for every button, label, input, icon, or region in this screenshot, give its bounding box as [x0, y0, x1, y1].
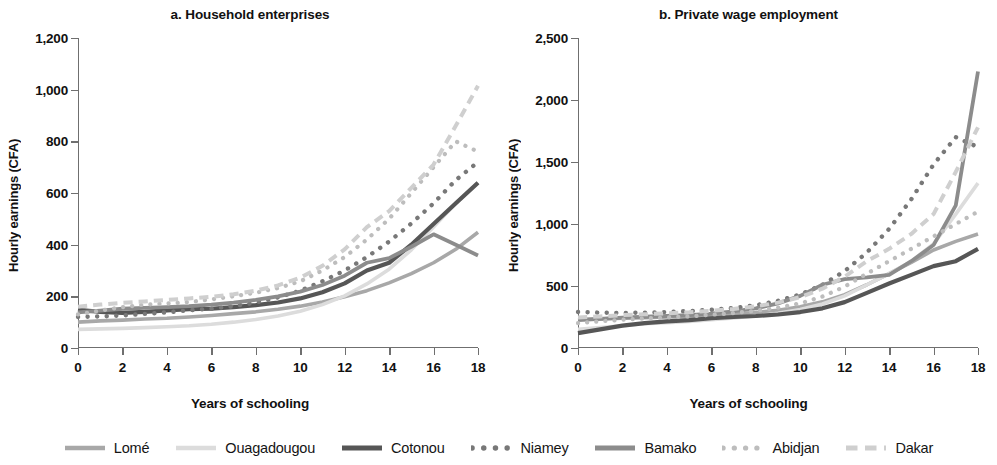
y-tick	[571, 348, 578, 349]
legend-swatch-solid-icon	[175, 441, 217, 455]
y-tick-label: 0	[61, 341, 68, 356]
legend-swatch-dashed-icon	[845, 441, 887, 455]
legend-swatch-dotted-icon	[471, 441, 513, 455]
series-line-bamako	[578, 71, 978, 320]
x-tick-label: 16	[926, 360, 941, 375]
x-tick	[978, 348, 979, 355]
legend-label: Abidjan	[772, 440, 819, 456]
x-tick	[667, 348, 668, 355]
y-tick-label: 1,000	[535, 217, 568, 232]
x-tick-label: 6	[208, 360, 215, 375]
x-tick-label: 0	[74, 360, 81, 375]
series-line-abidjan	[578, 212, 978, 324]
panel-b-y-axis-label: Hourly earnings (CFA)	[506, 105, 521, 305]
y-tick	[71, 245, 78, 246]
y-tick	[71, 296, 78, 297]
y-tick	[71, 90, 78, 91]
y-tick-label: 600	[46, 186, 68, 201]
x-tick-label: 10	[293, 360, 308, 375]
legend-item-abidjan[interactable]: Abidjan	[722, 440, 845, 456]
y-tick-label: 400	[46, 237, 68, 252]
x-tick-label: 14	[382, 360, 397, 375]
figure-container: a. Household enterprises Hourly earnings…	[0, 0, 997, 465]
x-tick-label: 2	[119, 360, 126, 375]
legend-item-bamako[interactable]: Bamako	[594, 440, 722, 456]
x-tick	[934, 348, 935, 355]
x-tick-label: 8	[752, 360, 759, 375]
x-tick-label: 6	[708, 360, 715, 375]
x-tick	[578, 348, 579, 355]
x-tick-label: 12	[837, 360, 852, 375]
legend-swatch-solid-icon	[64, 441, 106, 455]
legend-label: Lomé	[114, 440, 149, 456]
series-line-cotonou	[578, 249, 978, 333]
x-tick	[78, 348, 79, 355]
legend-item-cotonou[interactable]: Cotonou	[341, 440, 470, 456]
x-tick-label: 10	[793, 360, 808, 375]
y-tick	[71, 348, 78, 349]
y-tick	[71, 193, 78, 194]
x-tick-label: 4	[663, 360, 670, 375]
x-tick	[845, 348, 846, 355]
x-tick	[211, 348, 212, 355]
x-tick	[478, 348, 479, 355]
panel-a-y-axis-label: Hourly earnings (CFA)	[6, 105, 21, 305]
x-tick	[756, 348, 757, 355]
y-tick	[571, 162, 578, 163]
series-line-dakar	[78, 86, 478, 307]
panel-a-plot-area: 02004006008001,0001,200024681012141618	[78, 38, 478, 348]
legend-swatch-solid-icon	[594, 441, 636, 455]
panel-b-title: b. Private wage employment	[500, 7, 997, 22]
x-tick-label: 2	[619, 360, 626, 375]
panel-b-series-lines	[578, 38, 978, 348]
panel-a-x-axis-label: Years of schooling	[0, 396, 500, 411]
x-tick-label: 14	[882, 360, 897, 375]
x-tick-label: 16	[426, 360, 441, 375]
panel-household-enterprises: a. Household enterprises Hourly earnings…	[0, 0, 500, 425]
x-tick	[800, 348, 801, 355]
x-tick	[711, 348, 712, 355]
y-tick-label: 2,000	[535, 93, 568, 108]
x-tick	[256, 348, 257, 355]
x-tick	[389, 348, 390, 355]
legend-label: Bamako	[644, 440, 696, 456]
x-tick-label: 18	[471, 360, 486, 375]
panel-b-plot-area: 05001,0001,5002,0002,500024681012141618	[578, 38, 978, 348]
x-tick	[889, 348, 890, 355]
legend-label: Niamey	[521, 440, 569, 456]
legend-label: Ouagadougou	[225, 440, 315, 456]
legend-label: Dakar	[895, 440, 933, 456]
legend-swatch-solid-icon	[341, 441, 383, 455]
series-line-niamey	[578, 137, 978, 313]
y-tick-label: 0	[561, 341, 568, 356]
y-tick	[571, 38, 578, 39]
legend-item-lom[interactable]: Lomé	[64, 440, 175, 456]
legend-swatch-dotted-icon	[722, 441, 764, 455]
y-tick-label: 1,500	[535, 155, 568, 170]
series-line-cotonou	[78, 183, 478, 313]
x-tick	[434, 348, 435, 355]
panel-a-title: a. Household enterprises	[0, 7, 500, 22]
y-tick-label: 200	[46, 289, 68, 304]
y-tick-label: 500	[546, 279, 568, 294]
y-tick-label: 2,500	[535, 31, 568, 46]
series-line-abidjan	[78, 141, 478, 314]
y-tick-label: 1,000	[35, 82, 68, 97]
legend-item-niamey[interactable]: Niamey	[471, 440, 595, 456]
legend-item-ouagadougou[interactable]: Ouagadougou	[175, 440, 341, 456]
x-tick-label: 12	[337, 360, 352, 375]
panel-a-series-lines	[78, 38, 478, 348]
panel-private-wage-employment: b. Private wage employment Hourly earnin…	[500, 0, 997, 425]
x-tick-label: 0	[574, 360, 581, 375]
x-tick-label: 18	[971, 360, 986, 375]
legend-label: Cotonou	[391, 440, 444, 456]
y-tick-label: 1,200	[35, 31, 68, 46]
panel-b-x-axis-label: Years of schooling	[500, 396, 997, 411]
legend-item-dakar[interactable]: Dakar	[845, 440, 933, 456]
x-tick	[345, 348, 346, 355]
y-tick	[71, 141, 78, 142]
x-tick	[300, 348, 301, 355]
chart-legend: LoméOuagadougouCotonouNiameyBamakoAbidja…	[0, 430, 997, 465]
y-tick	[571, 286, 578, 287]
y-tick-label: 800	[46, 134, 68, 149]
